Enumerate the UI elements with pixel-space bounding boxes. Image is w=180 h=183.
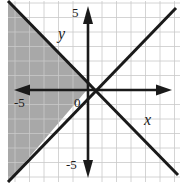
y-axis-variable-label: y xyxy=(58,26,65,42)
x-axis-variable-label: x xyxy=(144,112,151,128)
x-axis-tick-label-left: -5 xyxy=(14,96,25,109)
coordinate-graph: 5 -5 -5 0 y x xyxy=(0,0,180,183)
y-axis-tick-label-top: 5 xyxy=(72,6,79,19)
plot-area xyxy=(0,0,180,183)
origin-label: 0 xyxy=(74,96,81,109)
y-axis-tick-label-bottom: -5 xyxy=(66,158,77,171)
